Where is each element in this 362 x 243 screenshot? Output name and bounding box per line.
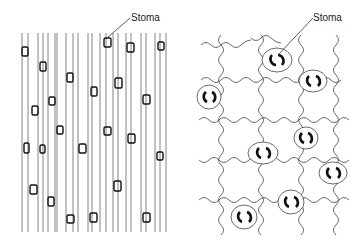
right-stoma-label: Stoma xyxy=(313,12,342,23)
dicot-cells-drawing xyxy=(181,0,362,243)
monocot-cells-drawing xyxy=(0,0,181,243)
figure: Stoma xyxy=(0,0,362,243)
left-panel-monocot-epidermis: Stoma xyxy=(0,0,181,243)
left-leader-line xyxy=(107,18,130,38)
left-stoma-label: Stoma xyxy=(131,12,160,23)
right-leader-line xyxy=(278,18,313,55)
right-panel-dicot-epidermis: Stoma xyxy=(181,0,362,243)
